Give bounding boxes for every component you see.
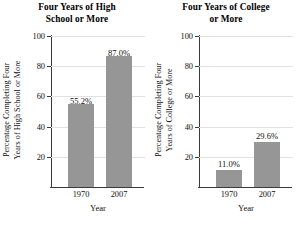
y-tick-label-100: 100: [180, 32, 193, 41]
y-axis-title-line-2: Years of College or More: [165, 63, 176, 157]
y-tick-20: [195, 157, 199, 158]
x-axis-line: [198, 187, 292, 188]
x-category-2007: 2007: [259, 190, 276, 199]
y-axis-title-line-1: Percentage Completing Four: [2, 60, 13, 159]
y-tick-label-40: 40: [185, 122, 193, 131]
bar-1970: [68, 104, 94, 187]
x-category-1970: 1970: [73, 190, 90, 199]
y-tick-40: [47, 127, 51, 128]
gridline-100: [199, 36, 293, 37]
y-tick-label-20: 20: [185, 152, 193, 161]
chart-panel-high-school: Four Years of High School or More Percen…: [0, 0, 150, 227]
y-axis-line: [51, 35, 52, 188]
bar-value-label-1970: 11.0%: [218, 159, 240, 169]
chart-title-high-school: Four Years of High School or More: [8, 2, 146, 25]
chart-title-line-2: or More: [209, 14, 242, 24]
y-tick-60: [195, 96, 199, 97]
y-tick-60: [47, 96, 51, 97]
plot-area-high-school: 100 80 60 40 20 55.2% 87.0%: [51, 36, 145, 187]
gridline-60: [199, 96, 293, 97]
y-tick-100: [195, 36, 199, 37]
x-axis-line: [50, 187, 144, 188]
bar-value-label-2007: 87.0%: [108, 48, 130, 58]
y-axis-title-college: Percentage Completing Four Years of Coll…: [152, 30, 178, 190]
bar-value-label-1970: 55.2%: [70, 96, 92, 106]
y-tick-40: [195, 127, 199, 128]
y-tick-label-60: 60: [37, 92, 45, 101]
y-tick-100: [47, 36, 51, 37]
x-category-2007: 2007: [111, 190, 128, 199]
gridline-80: [199, 66, 293, 67]
y-axis-line: [199, 35, 200, 188]
chart-title-line-1: Four Years of High: [38, 2, 115, 12]
y-tick-20: [47, 157, 51, 158]
y-tick-label-60: 60: [185, 92, 193, 101]
bar-2007: [106, 56, 132, 187]
y-tick-label-20: 20: [37, 152, 45, 161]
bar-1970: [216, 170, 242, 187]
gridline-40: [199, 127, 293, 128]
y-tick-label-40: 40: [37, 122, 45, 131]
y-tick-label-80: 80: [37, 62, 45, 71]
chart-title-college: Four Years of College or More: [154, 2, 298, 25]
figure-container: Four Years of High School or More Percen…: [0, 0, 300, 227]
bar-value-label-2007: 29.6%: [256, 131, 278, 141]
chart-title-line-1: Four Years of College: [182, 2, 270, 12]
x-category-1970: 1970: [221, 190, 238, 199]
chart-title-line-2: School or More: [46, 14, 109, 24]
y-tick-label-100: 100: [32, 32, 45, 41]
y-axis-title-line-2: Years of High School or More: [13, 60, 24, 159]
gridline-100: [51, 36, 145, 37]
plot-area-college: 100 80 60 40 20 11.0% 29.6%: [199, 36, 293, 187]
y-axis-title-high-school: Percentage Completing Four Years of High…: [0, 30, 26, 190]
x-axis-title-college: Year: [199, 203, 293, 213]
y-tick-80: [47, 66, 51, 67]
y-tick-80: [195, 66, 199, 67]
chart-panel-college: Four Years of College or More Percentage…: [150, 0, 300, 227]
x-axis-title-high-school: Year: [51, 203, 145, 213]
bar-2007: [254, 142, 280, 187]
y-tick-label-80: 80: [185, 62, 193, 71]
y-axis-title-line-1: Percentage Completing Four: [154, 63, 165, 157]
